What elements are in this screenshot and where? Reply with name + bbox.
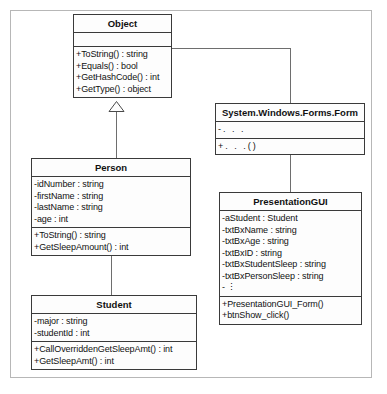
attribute-item: -lastName : string (34, 202, 189, 214)
attributes-compartment-person: -idNumber : string -firstName : string -… (32, 177, 190, 228)
class-name-presentationgui: PresentationGUI (220, 193, 361, 211)
operation-item: +ToString() : string (76, 49, 170, 61)
attributes-compartment-student: -major : string -studentId : int (32, 314, 196, 342)
operation-item: +. . .() (218, 141, 363, 153)
attribute-item: -studentId : int (34, 328, 195, 340)
attribute-item: -. . . (218, 124, 363, 136)
operations-compartment-person: +ToString() : string +GetSleepAmount() :… (32, 228, 190, 255)
operations-compartment-form: +. . .() (216, 139, 364, 155)
connector-object-to-form-horizontal (172, 48, 291, 49)
attribute-item: -txtBxStudentSleep : string (222, 259, 360, 271)
operations-compartment-presentationgui: +PresentationGUI_Form() +btnShow_click() (220, 297, 361, 324)
inheritance-arrow-person-to-object (108, 101, 125, 112)
attributes-compartment-object (74, 33, 171, 47)
attribute-item: -age : int (34, 214, 189, 226)
attribute-item: -major : string (34, 316, 195, 328)
class-box-presentationgui[interactable]: PresentationGUI -aStudent : Student -txt… (219, 192, 362, 325)
class-name-person: Person (32, 159, 190, 177)
class-box-object[interactable]: Object +ToString() : string +Equals() : … (73, 14, 172, 98)
operation-item: +PresentationGUI_Form() (222, 299, 360, 311)
operation-item: +GetSleepAmt() : int (34, 356, 195, 368)
class-name-form: System.Windows.Forms.Form (216, 104, 364, 122)
class-box-student[interactable]: Student -major : string -studentId : int… (31, 295, 197, 370)
attribute-item: - ⋮ (222, 282, 360, 294)
uml-class-diagram: Object +ToString() : string +Equals() : … (0, 0, 387, 394)
connector-object-to-form-vertical (290, 48, 291, 103)
connector-person-to-object (116, 110, 117, 158)
class-box-person[interactable]: Person -idNumber : string -firstName : s… (31, 158, 191, 256)
class-box-form[interactable]: System.Windows.Forms.Form -. . . +. . .(… (215, 103, 365, 155)
operation-item: +GetType() : object (76, 84, 170, 96)
operations-compartment-object: +ToString() : string +Equals() : bool +G… (74, 47, 171, 97)
operation-item: +GetSleepAmount() : int (34, 242, 189, 254)
attribute-item: -firstName : string (34, 191, 189, 203)
attribute-item: -txtBxName : string (222, 225, 360, 237)
operations-compartment-student: +CallOverriddenGetSleepAmt() : int +GetS… (32, 342, 196, 369)
operation-item: +Equals() : bool (76, 61, 170, 73)
attribute-item: -idNumber : string (34, 179, 189, 191)
operation-item: +GetHashCode() : int (76, 72, 170, 84)
operation-item: +ToString() : string (34, 230, 189, 242)
class-name-student: Student (32, 296, 196, 314)
operation-item: +btnShow_click() (222, 310, 360, 322)
operation-item: +CallOverriddenGetSleepAmt() : int (34, 344, 195, 356)
class-name-object: Object (74, 15, 171, 33)
attribute-item: -txtBxID : string (222, 248, 360, 260)
attribute-item: -txtBxAge : string (222, 236, 360, 248)
attributes-compartment-presentationgui: -aStudent : Student -txtBxName : string … (220, 211, 361, 297)
attribute-item: -aStudent : Student (222, 213, 360, 225)
attribute-item: -txtBxPersonSleep : string (222, 271, 360, 283)
attributes-compartment-form: -. . . (216, 122, 364, 139)
